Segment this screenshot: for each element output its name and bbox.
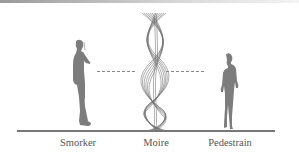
moire-label: Moire: [116, 137, 196, 148]
ground-line: [17, 130, 275, 132]
smoker-label: Smorker: [38, 137, 118, 148]
smoker-silhouette: [64, 38, 94, 133]
smoker-to-moire-dashed-line: [97, 71, 135, 72]
moire-pattern-column: [136, 13, 176, 131]
moire-to-pedestrian-dashed-line: [166, 71, 204, 72]
pedestrian-label: Pedestrain: [190, 137, 270, 148]
top-border-line: [0, 0, 299, 3]
pedestrian-silhouette: [216, 53, 240, 131]
